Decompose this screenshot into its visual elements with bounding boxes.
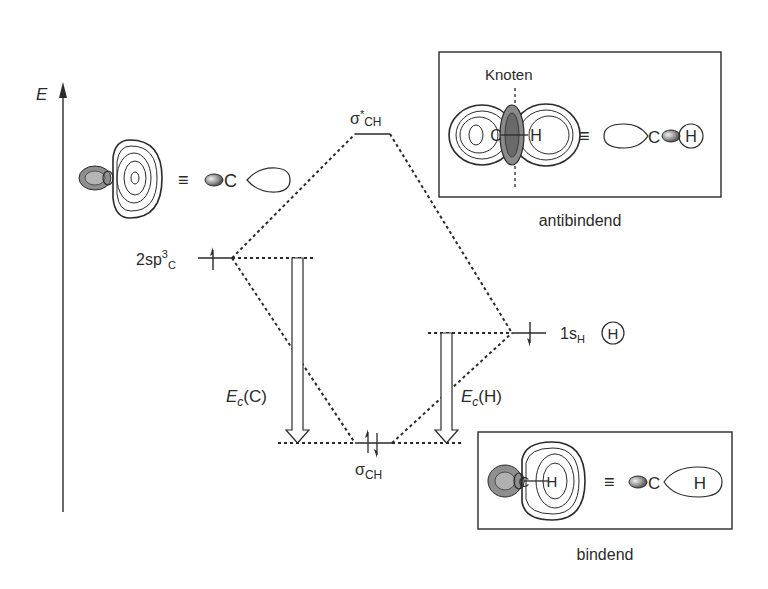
hydrogen-level-label: 1sH: [560, 325, 585, 345]
ec-carbon-label: Ec(C): [226, 387, 267, 409]
small-lobe-icon: [205, 174, 223, 186]
equiv-symbol: ≡: [604, 472, 615, 492]
ec-hydrogen-arrow: Ec(H): [435, 333, 502, 443]
antibonding-caption: antibindend: [539, 212, 622, 229]
svg-text:H: H: [608, 325, 619, 342]
sp3-contour-plot: [79, 140, 162, 218]
svg-text:H: H: [685, 128, 697, 145]
atom-c-label: C: [648, 128, 660, 147]
atom-c-label: C: [224, 171, 237, 191]
ec-carbon-arrow: Ec(C): [226, 258, 309, 443]
bonding-orbital-box: C H ≡ C H bindend: [478, 432, 732, 563]
svg-text:C: C: [490, 127, 502, 144]
antibonding-level: σ*CH: [350, 108, 390, 134]
svg-text:C: C: [519, 473, 530, 490]
ec-hydrogen-label: Ec(H): [461, 387, 502, 409]
equiv-symbol: ≡: [579, 126, 590, 146]
bonding-level-label: σCH: [355, 461, 382, 482]
svg-text:H: H: [547, 473, 558, 490]
antibonding-level-label: σ*CH: [350, 108, 382, 129]
atom-h-label: H: [694, 474, 706, 493]
hydrogen-1s-level: 1sH H: [512, 322, 624, 347]
sp3-hybrid-orbital: ≡ C: [79, 140, 290, 218]
mo-diagram: E ≡ C 2sp3C 1sH H σ*: [0, 0, 768, 589]
node-label: Knoten: [485, 66, 533, 83]
bonding-caption: bindend: [577, 546, 634, 563]
axis-label: E: [36, 85, 48, 104]
carbon-2sp3-level: 2sp3C: [136, 247, 232, 271]
bonding-level: σCH: [355, 429, 392, 482]
small-lobe-icon: [662, 130, 680, 142]
large-lobe-icon: [247, 168, 290, 192]
antibonding-orbital-box: Knoten C H ≡ C H antibindend: [439, 52, 721, 229]
axis-arrow-icon: [59, 82, 67, 98]
small-lobe-icon: [629, 476, 647, 488]
svg-text:H: H: [530, 127, 542, 144]
energy-axis: E: [36, 82, 67, 512]
carbon-level-label: 2sp3C: [136, 248, 176, 271]
atom-c-label: C: [648, 474, 660, 493]
equiv-symbol: ≡: [178, 170, 189, 190]
